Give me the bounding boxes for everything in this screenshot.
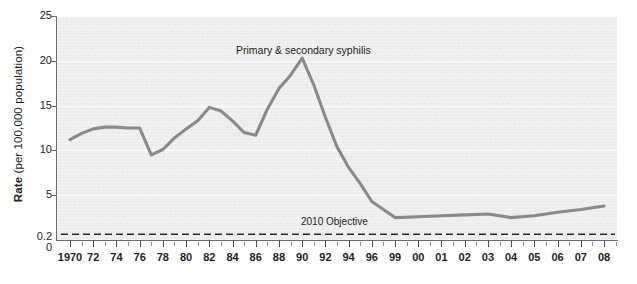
x-tick-minor <box>291 242 292 246</box>
series-annotation: Primary & secondary syphilis <box>236 44 371 56</box>
x-tick-minor <box>430 242 431 246</box>
y-tick-label-10: 10 <box>2 143 52 155</box>
y-tick-label-0: 0 <box>2 241 52 253</box>
x-tick-label-08: 08 <box>598 251 610 263</box>
x-tick-label-72: 72 <box>87 251 99 263</box>
x-tick-minor <box>151 242 152 246</box>
x-tick-label-78: 78 <box>157 251 169 263</box>
x-tick-label-86: 86 <box>250 251 262 263</box>
x-tick-label-04: 04 <box>505 251 517 263</box>
chart-figure: Rate (per 100,000 population) 00.2510152… <box>0 0 637 284</box>
x-tick-94 <box>349 240 350 247</box>
x-tick-label-76: 76 <box>134 251 146 263</box>
x-tick-minor <box>383 242 384 246</box>
x-tick-minor <box>500 242 501 246</box>
x-tick-minor <box>476 242 477 246</box>
x-tick-74 <box>116 240 117 247</box>
x-tick-76 <box>140 240 141 247</box>
x-tick-72 <box>93 240 94 247</box>
x-tick-minor <box>546 242 547 246</box>
x-tick-minor <box>198 242 199 246</box>
x-tick-label-92: 92 <box>319 251 331 263</box>
x-tick-1970 <box>70 240 71 247</box>
x-tick-minor <box>174 242 175 246</box>
x-tick-99 <box>395 240 396 247</box>
y-tick-15 <box>51 106 56 107</box>
x-tick-minor <box>569 242 570 246</box>
x-tick-label-96: 96 <box>366 251 378 263</box>
x-tick-label-90: 90 <box>296 251 308 263</box>
x-tick-84 <box>233 240 234 247</box>
y-tick-label-25: 25 <box>2 9 52 21</box>
x-tick-label-84: 84 <box>226 251 238 263</box>
x-tick-label-74: 74 <box>110 251 122 263</box>
x-tick-08 <box>604 240 605 247</box>
x-tick-minor <box>616 242 617 246</box>
y-tick-label-20: 20 <box>2 54 52 66</box>
y-tick-label-0_2: 0.2 <box>2 230 52 242</box>
y-tick-10 <box>51 150 56 151</box>
y-tick-25 <box>51 16 56 17</box>
x-axis-ticks: 1970727476788082848688909294969900010203… <box>57 240 619 284</box>
x-tick-label-05: 05 <box>528 251 540 263</box>
x-tick-06 <box>558 240 559 247</box>
x-tick-minor <box>360 242 361 246</box>
x-tick-label-00: 00 <box>412 251 424 263</box>
x-tick-03 <box>488 240 489 247</box>
x-tick-05 <box>534 240 535 247</box>
x-tick-82 <box>209 240 210 247</box>
x-tick-96 <box>372 240 373 247</box>
y-axis-labels: 00.2510152025 <box>0 0 52 284</box>
x-tick-label-80: 80 <box>180 251 192 263</box>
x-tick-minor <box>592 242 593 246</box>
x-tick-88 <box>279 240 280 247</box>
x-tick-label-88: 88 <box>273 251 285 263</box>
x-tick-minor <box>82 242 83 246</box>
x-tick-label-1970: 1970 <box>58 251 82 263</box>
x-tick-label-01: 01 <box>435 251 447 263</box>
x-tick-minor <box>337 242 338 246</box>
x-tick-00 <box>418 240 419 247</box>
x-tick-80 <box>186 240 187 247</box>
x-tick-90 <box>302 240 303 247</box>
x-tick-minor <box>314 242 315 246</box>
x-tick-07 <box>581 240 582 247</box>
x-tick-label-82: 82 <box>203 251 215 263</box>
y-tick-20 <box>51 61 56 62</box>
x-tick-78 <box>163 240 164 247</box>
x-tick-minor <box>105 242 106 246</box>
x-tick-minor <box>267 242 268 246</box>
x-tick-92 <box>325 240 326 247</box>
x-tick-minor <box>221 242 222 246</box>
y-tick-label-5: 5 <box>2 188 52 200</box>
y-tick-5 <box>51 195 56 196</box>
line-primary-secondary-syphilis <box>70 58 604 217</box>
y-axis-line <box>56 16 57 240</box>
x-tick-label-07: 07 <box>575 251 587 263</box>
x-tick-label-99: 99 <box>389 251 401 263</box>
x-tick-01 <box>441 240 442 247</box>
x-tick-label-02: 02 <box>459 251 471 263</box>
x-tick-minor <box>523 242 524 246</box>
objective-annotation: 2010 Objective <box>301 216 368 227</box>
y-tick-label-15: 15 <box>2 99 52 111</box>
x-tick-02 <box>465 240 466 247</box>
x-tick-label-03: 03 <box>482 251 494 263</box>
x-tick-04 <box>511 240 512 247</box>
x-tick-86 <box>256 240 257 247</box>
x-tick-label-94: 94 <box>342 251 354 263</box>
x-tick-label-06: 06 <box>551 251 563 263</box>
x-tick-minor <box>453 242 454 246</box>
x-tick-minor <box>244 242 245 246</box>
x-tick-minor <box>128 242 129 246</box>
x-tick-minor <box>407 242 408 246</box>
